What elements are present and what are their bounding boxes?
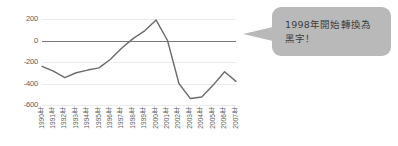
x-axis-labels: 1990年1991年1992年1993年1994年1995年1996年1997年… [42,107,236,146]
y-axis-tick-label: 0 [0,37,38,45]
x-axis-tick-label: 2001年 [164,107,171,129]
annotation-callout: 1998年開始轉換為 黑字！ [272,7,391,56]
x-axis-tick-label: 1998年 [130,107,137,129]
x-axis-tick-label: 2005年 [210,107,217,129]
x-axis-tick-label: 2002年 [175,107,182,129]
plot-area [42,19,236,105]
x-axis-tick-label: 1999年 [141,107,148,129]
x-axis-tick-label: 2004年 [198,107,205,129]
y-axis-tick-label: -200 [0,58,38,66]
x-axis-tick-label: 1990年 [39,107,46,129]
x-axis-tick-label: 2000年 [153,107,160,129]
series-line [42,19,236,105]
y-axis-tick-label: -400 [0,80,38,88]
callout-tail-icon [243,26,273,42]
x-axis-tick-label: 1995年 [96,107,103,129]
y-axis-labels: 2000-200-400-600 [0,0,40,146]
x-axis-tick-label: 1997年 [118,107,125,129]
annotation-callout-text: 1998年開始轉換為 黑字！ [285,18,391,46]
x-axis-tick-label: 1992年 [61,107,68,129]
x-axis-tick-label: 1996年 [107,107,114,129]
x-axis-tick-label: 1991年 [50,107,57,129]
y-axis-tick-label: 200 [0,15,38,23]
x-axis-tick-label: 2003年 [187,107,194,129]
x-axis-tick-label: 1994年 [84,107,91,129]
x-axis-tick-label: 2007年 [233,107,240,129]
x-axis-tick-label: 1993年 [73,107,80,129]
y-axis-tick-label: -600 [0,101,38,109]
x-axis-tick-label: 2006年 [221,107,228,129]
chart-figure: 2000-200-400-600 1990年1991年1992年1993年199… [0,0,398,146]
